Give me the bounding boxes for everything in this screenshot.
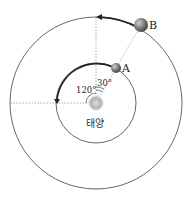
angle-30-label: 30° bbox=[97, 78, 112, 88]
outer-motion-arc bbox=[100, 17, 139, 28]
planet-a bbox=[111, 63, 121, 73]
outer-arrow-icon bbox=[96, 14, 102, 20]
orbit-diagram: A B 120° 30° 태양 bbox=[0, 0, 189, 199]
planet-a-label: A bbox=[121, 62, 131, 75]
angle-120-label: 120° bbox=[76, 85, 96, 95]
planet-b bbox=[134, 18, 148, 32]
sun-icon bbox=[93, 100, 99, 106]
planet-b-label: B bbox=[149, 19, 157, 32]
angle-30-arc-2 bbox=[96, 90, 103, 92]
sun-label: 태양 bbox=[86, 118, 104, 129]
